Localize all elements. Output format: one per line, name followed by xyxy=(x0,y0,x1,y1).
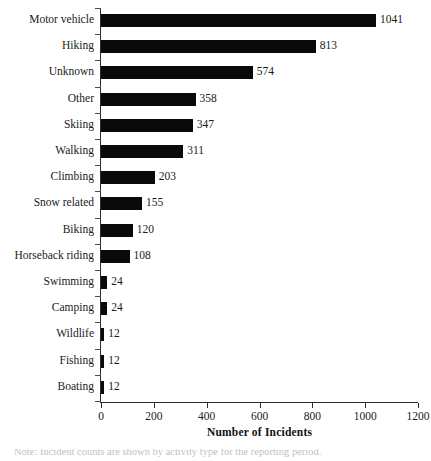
bar-row: 347 xyxy=(101,113,418,139)
bar-value-label: 24 xyxy=(111,300,123,315)
bar-value-label: 155 xyxy=(146,195,163,210)
y-tick xyxy=(95,113,101,114)
bar-row: 108 xyxy=(101,244,418,270)
y-tick xyxy=(95,244,101,245)
bar-row: 12 xyxy=(101,322,418,348)
x-tick xyxy=(154,403,155,408)
x-tick xyxy=(260,403,261,408)
bar-value-label: 108 xyxy=(134,248,151,263)
bar-value-label: 12 xyxy=(108,353,120,368)
y-tick xyxy=(95,60,101,61)
bar xyxy=(101,250,130,263)
bar xyxy=(101,171,155,184)
x-tick-label: 1000 xyxy=(354,409,377,423)
bar xyxy=(101,40,316,53)
x-tick-label: 800 xyxy=(304,409,321,423)
x-tick-label: 600 xyxy=(251,409,268,423)
category-label: Motor vehicle xyxy=(0,12,101,27)
bar-value-label: 203 xyxy=(159,169,176,184)
category-label: Swimming xyxy=(0,274,101,289)
x-tick-label: 400 xyxy=(198,409,215,423)
bar xyxy=(101,145,183,158)
bar-row: 203 xyxy=(101,165,418,191)
bar xyxy=(101,276,107,289)
y-tick xyxy=(95,165,101,166)
bar xyxy=(101,381,104,394)
category-label: Fishing xyxy=(0,353,101,368)
bar xyxy=(101,93,196,106)
bar-value-label: 574 xyxy=(257,64,274,79)
x-tick-label: 200 xyxy=(145,409,162,423)
bar-value-label: 24 xyxy=(111,274,123,289)
figure-caption-clipped: Note: Incident counts are shown by activ… xyxy=(0,449,431,461)
bar-row: 155 xyxy=(101,191,418,217)
bar-value-label: 311 xyxy=(187,143,204,158)
category-label: Snow related xyxy=(0,195,101,210)
y-tick xyxy=(95,191,101,192)
bar xyxy=(101,66,253,79)
bar-value-label: 120 xyxy=(137,222,154,237)
y-tick xyxy=(95,218,101,219)
x-tick-label: 0 xyxy=(98,409,104,423)
bar-value-label: 358 xyxy=(200,91,217,106)
y-tick xyxy=(95,375,101,376)
bar xyxy=(101,224,133,237)
x-tick xyxy=(207,403,208,408)
bar xyxy=(101,355,104,368)
y-tick xyxy=(95,401,101,402)
x-tick xyxy=(365,403,366,408)
category-label: Climbing xyxy=(0,169,101,184)
bar-row: 24 xyxy=(101,296,418,322)
bar-value-label: 813 xyxy=(320,38,337,53)
y-tick xyxy=(95,87,101,88)
bar xyxy=(101,14,376,27)
x-tick xyxy=(312,403,313,408)
category-label: Wildlife xyxy=(0,326,101,341)
x-tick xyxy=(418,403,419,408)
category-label: Camping xyxy=(0,300,101,315)
bar-row: 12 xyxy=(101,349,418,375)
y-tick xyxy=(95,8,101,9)
bar-value-label: 12 xyxy=(108,326,120,341)
y-tick xyxy=(95,34,101,35)
bar-row: 12 xyxy=(101,375,418,401)
x-tick xyxy=(101,403,102,408)
category-label: Skiing xyxy=(0,117,101,132)
x-axis-title: Number of Incidents xyxy=(101,426,418,438)
y-tick xyxy=(95,139,101,140)
bar xyxy=(101,197,142,210)
bar-value-label: 1041 xyxy=(380,12,403,27)
caption-text: Note: Incident counts are shown by activ… xyxy=(14,449,321,458)
bar-value-label: 12 xyxy=(108,379,120,394)
y-tick xyxy=(95,349,101,350)
bar-row: 311 xyxy=(101,139,418,165)
bar-chart: 1041813574358347311203155120108242412121… xyxy=(0,0,431,461)
y-tick xyxy=(95,270,101,271)
category-label: Walking xyxy=(0,143,101,158)
bar xyxy=(101,119,193,132)
bar-row: 813 xyxy=(101,34,418,60)
y-tick xyxy=(95,322,101,323)
x-tick-label: 1200 xyxy=(407,409,430,423)
y-tick xyxy=(95,296,101,297)
bar-row: 358 xyxy=(101,87,418,113)
category-label: Biking xyxy=(0,222,101,237)
category-label: Boating xyxy=(0,379,101,394)
bar-row: 1041 xyxy=(101,8,418,34)
plot-area: 1041813574358347311203155120108242412121… xyxy=(101,8,418,403)
bar-row: 120 xyxy=(101,218,418,244)
category-label: Hiking xyxy=(0,38,101,53)
category-label: Horseback riding xyxy=(0,248,101,263)
category-label: Unknown xyxy=(0,64,101,79)
bar-row: 574 xyxy=(101,60,418,86)
bar-row: 24 xyxy=(101,270,418,296)
bar xyxy=(101,302,107,315)
category-label: Other xyxy=(0,91,101,106)
bar-value-label: 347 xyxy=(197,117,214,132)
bar xyxy=(101,328,104,341)
